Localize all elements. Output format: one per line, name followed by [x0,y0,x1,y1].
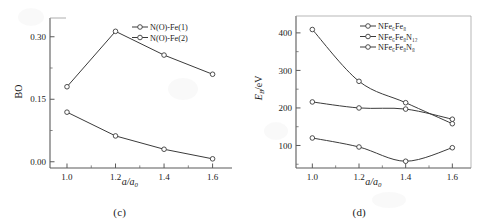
y-tick-label: 100 [278,141,292,151]
y-tick-label: 400 [278,28,292,38]
data-point-marker [403,100,408,105]
data-point-marker [310,136,315,141]
data-point-marker [403,107,408,112]
panel-c-series [65,29,215,161]
panel-d-svg: 1.01.21.41.6100200300400 NFe₆Fe₈NFe₆Fe₈N… [240,0,479,196]
data-point-marker [356,106,361,111]
data-point-marker [450,121,455,126]
panel-c-plot: 1.01.21.41.60.000.150.30 N(O)-Fe(1)N(O)-… [0,0,239,196]
data-point-marker [113,134,118,139]
panel-c-y-axis-label: BO [13,72,24,112]
panel-d-y-axis-label-sub: B [257,90,264,94]
data-point-marker [210,72,215,77]
legend-marker [138,25,143,30]
data-point-marker [210,157,215,162]
data-point-marker [310,27,315,32]
panel-d-plot: 1.01.21.41.6100200300400 NFe₆Fe₈NFe₆Fe₈N… [240,0,479,196]
y-tick-label: 0.30 [30,32,46,42]
data-point-marker [162,147,167,152]
panel-d-x-axis-label-text: a/a [365,176,378,187]
panel-d-caption-text: (d) [353,206,366,218]
y-tick-label: 200 [278,103,292,113]
legend-marker [365,24,370,29]
panel-d-x-axis-label-sub: 0 [378,181,381,188]
panel-d-y-axis-label: EB/eV [253,63,265,113]
y-tick-label: 0.15 [30,94,46,104]
panel-c-y-axis-label-text: BO [13,85,24,99]
panel-c-caption-text: (c) [113,206,126,218]
panel-d-ticks: 1.01.21.41.6100200300400 [278,28,458,181]
legend-marker [365,34,370,39]
panel-c: 1.01.21.41.60.000.150.30 N(O)-Fe(1)N(O)-… [0,0,240,224]
series-line [312,102,452,119]
panel-c-x-axis-label: a/a0 [10,176,250,188]
data-point-marker [310,100,315,105]
data-point-marker [356,79,361,84]
panel-d-x-axis-label: a/a0 [254,176,479,188]
panel-c-svg: 1.01.21.41.60.000.150.30 N(O)-Fe(1)N(O)-… [0,0,239,196]
legend-label: NFe₆Fe₈N₈ [378,43,415,52]
panel-c-x-axis-label-sub: 0 [134,181,137,188]
legend-label: NFe₆Fe₈N₁₂ [378,33,418,42]
legend-label: N(O)-Fe(2) [150,34,188,43]
legend-marker [138,35,143,40]
data-point-marker [403,159,408,164]
panel-c-axes [50,18,232,168]
data-point-marker [450,117,455,122]
data-point-marker [113,29,118,34]
series-line [312,138,452,161]
data-point-marker [356,145,361,150]
panel-c-legend: N(O)-Fe(1)N(O)-Fe(2) [132,23,188,42]
panel-d-legend: NFe₆Fe₈NFe₆Fe₈N₁₂NFe₆Fe₈N₈ [360,22,418,52]
legend-marker [365,45,370,50]
data-point-marker [65,110,70,115]
data-point-marker [65,84,70,89]
data-point-marker [450,145,455,150]
y-tick-label: 300 [278,66,292,76]
panel-d: 1.01.21.41.6100200300400 NFe₆Fe₈NFe₆Fe₈N… [240,0,479,224]
series-line [67,112,213,159]
panel-c-ticks: 1.01.21.41.60.000.150.30 [30,32,218,182]
panel-d-y-axis-label-unit: /eV [253,75,264,89]
legend-label: N(O)-Fe(1) [150,23,188,32]
panel-c-x-axis-label-text: a/a [122,176,135,187]
y-tick-label: 0.00 [30,157,46,167]
figure-container: 1.01.21.41.60.000.150.30 N(O)-Fe(1)N(O)-… [0,0,479,224]
data-point-marker [162,53,167,58]
panel-d-y-axis-label-main: E [253,94,264,100]
legend-label: NFe₆Fe₈ [378,22,406,31]
panel-d-caption: (d) [240,206,479,218]
panel-c-caption: (c) [0,206,240,218]
